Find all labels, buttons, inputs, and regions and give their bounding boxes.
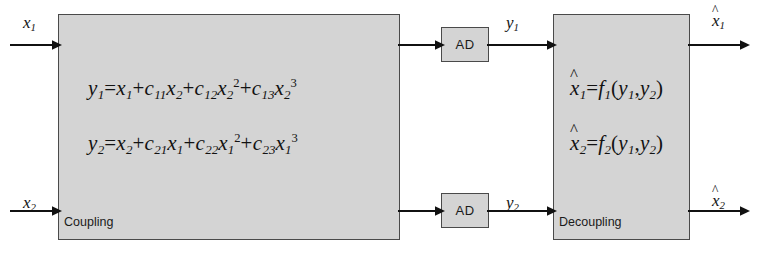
- equation-y2: y2=x2+c21x1+c22x12+c23x13: [88, 131, 298, 158]
- ad-block-bottom: AD: [441, 193, 489, 228]
- arrow-decoupling-to-output-xhat1: [688, 39, 750, 51]
- equation-xhat1: ^x1=f1(y1,y2): [570, 76, 663, 103]
- arrow-decoupling-to-output-xhat2: [688, 205, 750, 217]
- decoupling-block-label: Decoupling: [559, 215, 622, 229]
- signal-label-output-xhat1: ^x1: [712, 11, 725, 31]
- ad-block-top: AD: [441, 27, 489, 62]
- arrow-input-x1-to-coupling: [10, 39, 62, 51]
- signal-label-input-x1: x1: [23, 13, 36, 33]
- arrow-input-x2-to-coupling: [10, 205, 62, 217]
- signal-label-y1: y1: [506, 13, 519, 33]
- arrow-coupling-to-ad-top: [398, 39, 445, 51]
- equation-xhat2: ^x2=f2(y1,y2): [570, 131, 663, 158]
- equation-y1: y1=x1+c11x2+c12x22+c13x23: [88, 76, 297, 103]
- arrow-ad-top-to-decoupling: [487, 39, 557, 51]
- block-diagram: Coupling y1=x1+c11x2+c12x22+c13x23 y2=x2…: [0, 0, 760, 255]
- coupling-block: [58, 14, 400, 240]
- arrow-coupling-to-ad-bottom: [398, 205, 445, 217]
- coupling-block-label: Coupling: [64, 215, 113, 229]
- arrow-ad-bottom-to-decoupling: [487, 205, 557, 217]
